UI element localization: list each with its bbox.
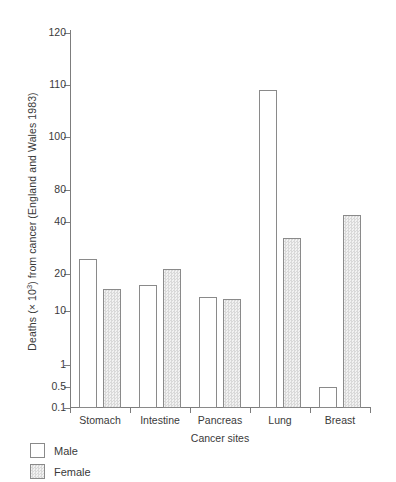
bar-lung-male (259, 90, 277, 408)
y-axis-title: Deaths (× 103) from cancer (England and … (25, 52, 38, 392)
bar-intestine-female (163, 269, 181, 408)
y-axis-tick-label: 110 (49, 78, 66, 91)
y-axis-tick-label: 100 (48, 130, 66, 143)
x-axis-title: Cancer sites (70, 432, 370, 444)
y-axis-title-prefix: Deaths (× 10 (26, 289, 38, 351)
x-axis-label-stomach: Stomach (79, 414, 120, 426)
x-axis-label-intestine: Intestine (140, 414, 180, 426)
bar-stomach-male (79, 259, 97, 408)
bar-intestine-male (139, 285, 157, 408)
y-axis-tick-label: 1 (60, 358, 66, 371)
y-axis-title-suffix: ) from cancer (England and Wales 1983) (26, 92, 38, 285)
x-axis-label-lung: Lung (268, 414, 291, 426)
chart-legend: MaleFemale (30, 440, 91, 482)
x-axis-tick-mark (130, 407, 131, 413)
y-axis-line (70, 30, 71, 408)
bar-stomach-female (103, 289, 121, 408)
legend-item-male: Male (30, 440, 91, 461)
y-axis-tick-label: 20 (54, 267, 66, 280)
legend-item-female: Female (30, 461, 91, 482)
legend-swatch-male (30, 443, 45, 458)
x-axis-label-breast: Breast (325, 414, 355, 426)
x-axis-tick-mark (310, 407, 311, 413)
bar-lung-female (283, 238, 301, 408)
y-axis-tick-label: 0.5 (51, 380, 66, 393)
x-axis-tick-mark (190, 407, 191, 413)
bar-breast-female (343, 215, 361, 408)
legend-label-male: Male (54, 445, 78, 457)
y-axis-tick-label: 10 (54, 304, 66, 317)
y-axis-tick-label: 80 (54, 183, 66, 196)
x-axis-tick-mark (370, 407, 371, 413)
y-axis-title-exponent: 3 (25, 285, 34, 289)
bar-breast-male (319, 387, 337, 408)
bar-pancreas-female (223, 299, 241, 408)
x-axis-tick-mark (250, 407, 251, 413)
plot-area: 1201101008040201010.50.1 StomachIntestin… (70, 30, 370, 408)
x-axis-label-pancreas: Pancreas (198, 414, 242, 426)
legend-label-female: Female (54, 466, 91, 478)
y-axis-tick-label: 120 (48, 26, 66, 39)
y-axis-tick-label: 0.1 (51, 401, 66, 414)
legend-swatch-female (30, 464, 45, 479)
x-axis-tick-mark (70, 407, 71, 413)
y-axis-tick-label: 40 (54, 215, 66, 228)
bar-pancreas-male (199, 297, 217, 408)
